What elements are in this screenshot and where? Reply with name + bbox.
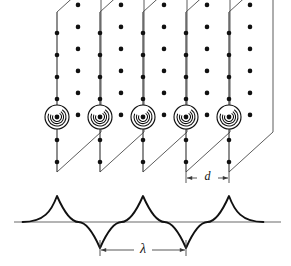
atom-interior-5-2 [248, 25, 253, 30]
plane-spacing-arrowhead-right [223, 176, 228, 180]
plane-spacing-dimension: d [186, 169, 229, 183]
vortex-core-5 [227, 115, 232, 120]
atom-interior-2-3 [119, 47, 124, 52]
atom-interior-4-2 [205, 25, 210, 30]
atom-edge-1-6 [55, 160, 60, 165]
diagram-canvas: d λ [0, 0, 291, 266]
atom-edge-2-3 [98, 75, 103, 80]
atom-edge-5-6 [227, 160, 232, 165]
atom-interior-3-2 [162, 25, 167, 30]
lattice-wave-diagram: d λ [0, 0, 291, 266]
atom-edge-5-1 [227, 31, 232, 36]
atom-interior-2-6 [119, 113, 124, 118]
wavelength-dimension: λ [100, 240, 186, 256]
atom-edge-3-5 [141, 138, 146, 143]
atom-interior-2-2 [119, 25, 124, 30]
vortex-core-2 [98, 115, 103, 120]
atom-edge-2-2 [98, 53, 103, 58]
atom-interior-2-5 [119, 91, 124, 96]
flux-vortex-3 [131, 105, 155, 129]
wavelength-arrowhead-right [180, 248, 185, 252]
atom-interior-2-1 [119, 3, 124, 8]
atom-edge-3-6 [141, 160, 146, 165]
atom-edge-2-5 [98, 138, 103, 143]
atom-interior-3-3 [162, 47, 167, 52]
atom-interior-3-6 [162, 113, 167, 118]
vortex-core-3 [141, 115, 146, 120]
atom-interior-5-6 [248, 113, 253, 118]
atom-interior-1-4 [76, 69, 81, 74]
standing-wave-group [14, 196, 281, 248]
atom-edge-1-5 [55, 138, 60, 143]
plane-spacing-label: d [205, 169, 212, 183]
atom-edge-2-1 [98, 31, 103, 36]
atom-interior-1-3 [76, 47, 81, 52]
flux-vortex-5 [217, 105, 241, 129]
atom-edge-3-3 [141, 75, 146, 80]
atom-edge-1-1 [55, 31, 60, 36]
atom-edge-4-4 [184, 97, 189, 102]
atom-interior-5-4 [248, 69, 253, 74]
wavelength-arrowhead-left [101, 248, 106, 252]
atom-edge-5-5 [227, 138, 232, 143]
atom-edge-5-2 [227, 53, 232, 58]
wavelength-label: λ [139, 241, 146, 256]
atom-edge-4-1 [184, 31, 189, 36]
vortex-core-1 [55, 115, 60, 120]
atom-interior-4-4 [205, 69, 210, 74]
flux-vortex-1 [45, 105, 69, 129]
atom-edge-4-3 [184, 75, 189, 80]
atom-interior-4-1 [205, 3, 210, 8]
flux-vortices-group [45, 105, 241, 129]
atom-edge-2-6 [98, 160, 103, 165]
atom-interior-2-4 [119, 69, 124, 74]
atom-interior-4-6 [205, 113, 210, 118]
atom-interior-1-6 [76, 113, 81, 118]
atom-interior-5-5 [248, 91, 253, 96]
atom-interior-3-4 [162, 69, 167, 74]
atom-interior-5-1 [248, 3, 253, 8]
atom-edge-3-1 [141, 31, 146, 36]
atom-interior-1-1 [76, 3, 81, 8]
atom-edge-3-4 [141, 97, 146, 102]
atom-edge-5-4 [227, 97, 232, 102]
atom-edge-3-2 [141, 53, 146, 58]
atom-interior-1-5 [76, 91, 81, 96]
atom-edge-4-6 [184, 160, 189, 165]
atom-edge-1-2 [55, 53, 60, 58]
plane-spacing-arrowhead-left [187, 176, 192, 180]
atom-edge-5-3 [227, 75, 232, 80]
atom-interior-5-3 [248, 47, 253, 52]
vortex-core-4 [184, 115, 189, 120]
atom-edge-1-3 [55, 75, 60, 80]
atom-edge-1-4 [55, 97, 60, 102]
atom-edge-2-4 [98, 97, 103, 102]
atom-interior-1-2 [76, 25, 81, 30]
atom-interior-3-5 [162, 91, 167, 96]
atom-interior-3-1 [162, 3, 167, 8]
atom-edge-4-5 [184, 138, 189, 143]
lattice-atoms-group [55, 3, 253, 165]
flux-vortex-2 [88, 105, 112, 129]
flux-vortex-4 [174, 105, 198, 129]
atom-interior-4-5 [205, 91, 210, 96]
atom-edge-4-2 [184, 53, 189, 58]
atom-interior-4-3 [205, 47, 210, 52]
